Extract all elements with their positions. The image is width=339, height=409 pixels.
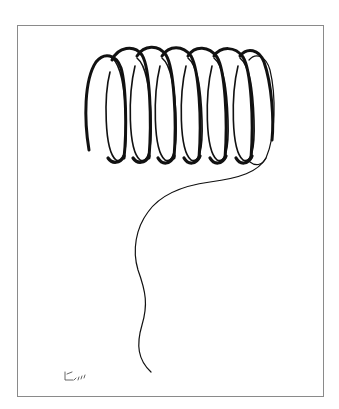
coil-bottom-accents <box>108 156 252 163</box>
coil-tail <box>135 158 266 372</box>
coil-front-strokes <box>86 47 273 158</box>
artist-signature <box>65 372 85 380</box>
coil-back-strokes <box>106 58 254 161</box>
coil-drawing <box>0 0 339 409</box>
